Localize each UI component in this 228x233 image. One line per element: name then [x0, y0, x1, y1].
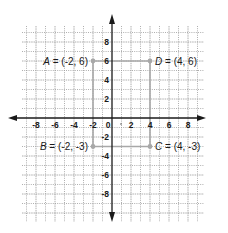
coordinate-plane-svg: -8-6-4-2024688642-2-4-6-8 A = (-2, 6)D =… — [0, 0, 228, 233]
x-tick-label: 0 — [106, 120, 111, 130]
point-a — [91, 59, 96, 64]
coordinate-plane-diagram: -8-6-4-2024688642-2-4-6-8 A = (-2, 6)D =… — [0, 0, 228, 233]
x-tick-label: 4 — [148, 120, 153, 130]
x-tick-label: 8 — [186, 120, 191, 130]
x-tick-label: -2 — [89, 120, 97, 130]
point-label-a: A = (-2, 6) — [42, 56, 88, 67]
point-d — [148, 59, 153, 64]
small-dot-mark — [120, 123, 122, 125]
point-b — [91, 144, 96, 149]
x-axis-right-arrow-icon — [197, 115, 206, 121]
y-tick-label: -2 — [101, 132, 109, 142]
points: A = (-2, 6)D = (4, 6)B = (-2, -3)C = (4,… — [40, 56, 200, 153]
y-tick-label: 2 — [104, 94, 109, 104]
y-axis-up-arrow-icon — [109, 14, 115, 24]
y-tick-label: 4 — [104, 75, 109, 85]
y-tick-label: 6 — [104, 56, 109, 66]
y-tick-label: -8 — [101, 189, 109, 199]
x-tick-label: 2 — [129, 120, 134, 130]
y-axis-down-arrow-icon — [109, 212, 115, 222]
point-label-c: C = (4, -3) — [155, 141, 200, 152]
y-tick-label: -4 — [101, 151, 109, 161]
y-tick-label: 8 — [104, 37, 109, 47]
x-tick-label: -8 — [32, 120, 40, 130]
y-tick-label: -6 — [101, 170, 109, 180]
x-tick-label: -6 — [51, 120, 59, 130]
x-axis-left-arrow-icon — [8, 115, 17, 121]
point-label-d: D = (4, 6) — [155, 56, 197, 67]
point-c — [148, 144, 153, 149]
point-label-b: B = (-2, -3) — [40, 141, 88, 152]
x-tick-label: -4 — [70, 120, 78, 130]
x-tick-label: 6 — [167, 120, 172, 130]
